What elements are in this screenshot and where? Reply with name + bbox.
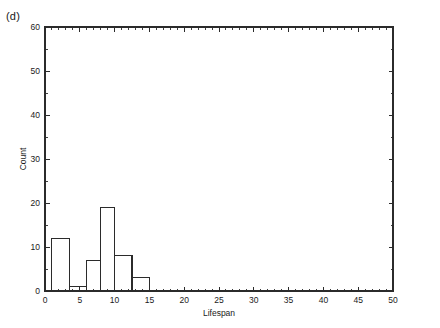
y-tick-label: 0 — [35, 286, 40, 296]
y-tick-label: 30 — [31, 154, 41, 164]
x-axis-title: Lifespan — [203, 308, 235, 318]
x-tick-label: 10 — [110, 295, 120, 305]
x-axis-tick-labels: 05101520253035404550 — [43, 295, 398, 305]
x-tick-label: 45 — [353, 295, 363, 305]
plot-background — [45, 27, 393, 291]
x-tick-label: 5 — [77, 295, 82, 305]
y-axis-tick-labels: 0102030405060 — [31, 22, 41, 296]
y-tick-label: 20 — [31, 198, 41, 208]
figure-panel: (d) 05101520253035404550 0102030405060 L… — [0, 0, 440, 328]
y-axis-title: Count — [18, 147, 28, 170]
y-tick-label: 10 — [31, 242, 41, 252]
x-tick-label: 25 — [214, 295, 224, 305]
x-tick-label: 40 — [319, 295, 329, 305]
y-tick-label: 50 — [31, 66, 41, 76]
y-tick-label: 40 — [31, 110, 41, 120]
x-tick-label: 20 — [179, 295, 189, 305]
x-tick-label: 0 — [43, 295, 48, 305]
y-tick-label: 60 — [31, 22, 41, 32]
x-tick-label: 35 — [284, 295, 294, 305]
x-tick-label: 50 — [388, 295, 398, 305]
x-tick-label: 15 — [145, 295, 155, 305]
x-tick-label: 30 — [249, 295, 259, 305]
histogram-plot: 05101520253035404550 0102030405060 Lifes… — [0, 0, 440, 328]
